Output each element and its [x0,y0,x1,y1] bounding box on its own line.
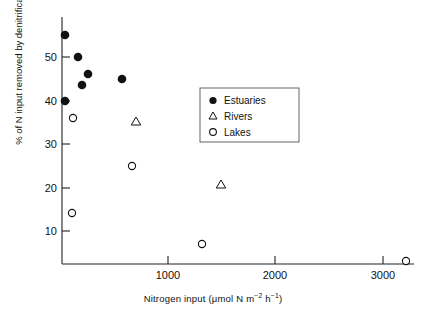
x-tick-label-3000: 3000 [371,269,395,281]
y-axis-title: % of N input removed by denitrification [13,0,24,164]
data-point-lakes [198,240,205,247]
x-axis-title: Nitrogen input (μmol N m−2 h−1) [0,292,426,304]
data-point-lakes [402,257,409,264]
x-tick-label-1000: 1000 [156,269,180,281]
x-axis-title-part1: Nitrogen input (μmol N m [144,293,255,304]
data-point-estuaries [61,31,70,40]
y-tick-label-30: 30 [45,138,57,150]
data-point-rivers [131,117,140,125]
scatter-chart-figure: 10 20 30 40 50 1000 2000 3000 [0,0,426,320]
x-axis-title-part3: ) [279,293,282,304]
data-point-rivers [216,180,225,188]
data-point-estuaries [84,70,93,79]
legend-label-lakes: Lakes [224,127,251,138]
legend-label-estuaries: Estuaries [224,95,266,106]
data-point-lakes [69,114,76,121]
data-point-estuaries [78,81,87,90]
y-tick-label-20: 20 [45,182,57,194]
x-axis-title-exp2: −1 [271,292,279,299]
y-axis-ticks [62,57,70,231]
series-estuaries [61,31,127,106]
x-axis-title-part2: h [262,293,270,304]
y-tick-label-40: 40 [45,95,57,107]
legend-label-rivers: Rivers [224,111,252,122]
y-tick-label-10: 10 [45,225,57,237]
plot-canvas: 10 20 30 40 50 1000 2000 3000 [0,0,426,320]
data-point-estuaries [61,97,70,106]
y-axis-tick-labels: 10 20 30 40 50 [45,51,57,237]
legend-marker-filled-circle-icon [209,97,216,104]
data-point-lakes [68,209,75,216]
data-point-estuaries [118,75,127,84]
data-point-estuaries [74,53,83,62]
x-axis-ticks [168,256,383,264]
x-axis-tick-labels: 1000 2000 3000 [156,269,395,281]
chart-legend: Estuaries Rivers Lakes [200,88,299,142]
legend-marker-open-circle-icon [210,129,217,136]
x-tick-label-2000: 2000 [263,269,287,281]
data-point-lakes [128,162,135,169]
y-tick-label-50: 50 [45,51,57,63]
